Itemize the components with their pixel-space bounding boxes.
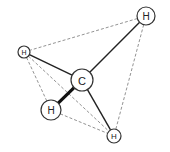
bond-c-h3 xyxy=(58,88,74,103)
atom-label: C xyxy=(78,75,86,87)
atom-h4: H xyxy=(107,129,121,143)
atom-label: H xyxy=(47,105,54,116)
atom-label: H xyxy=(142,11,149,22)
tetrahedron-edge-h3-h4 xyxy=(60,114,107,134)
bond-c-h2 xyxy=(29,55,72,76)
tetrahedron-edge-h1-h2 xyxy=(30,19,138,51)
bond-c-h4 xyxy=(87,90,110,130)
atom-label: H xyxy=(21,49,26,56)
methane-diagram: CHHHH xyxy=(0,0,170,152)
bond-c-h1 xyxy=(90,22,140,72)
atom-c: C xyxy=(71,69,93,91)
atom-label: H xyxy=(111,132,117,141)
atom-h3: H xyxy=(41,100,61,120)
atom-h2: H xyxy=(18,46,30,58)
atom-h1: H xyxy=(137,7,155,25)
tetrahedron-edge-h1-h4 xyxy=(116,25,144,130)
